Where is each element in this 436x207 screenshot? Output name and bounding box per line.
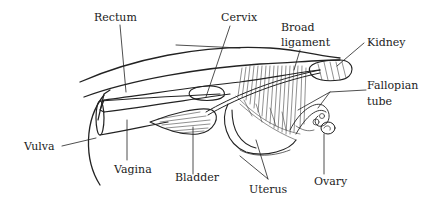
fallopian-tube-shape bbox=[290, 104, 329, 134]
label-ovary: Ovary bbox=[314, 176, 347, 188]
label-uterus: Uterus bbox=[249, 184, 287, 196]
label-broad-ligament-line2: ligament bbox=[281, 37, 330, 49]
label-vulva: Vulva bbox=[24, 141, 55, 153]
label-vagina: Vagina bbox=[114, 164, 152, 176]
label-broad-ligament-line1: Broad bbox=[281, 22, 315, 34]
label-rectum: Rectum bbox=[94, 12, 137, 24]
ureter-line bbox=[206, 70, 320, 115]
ovary-shape bbox=[321, 122, 335, 134]
cervix-shape bbox=[189, 86, 224, 101]
anatomy-diagram: Rectum Cervix Broad ligament Kidney Fall… bbox=[0, 0, 436, 207]
bladder-shape bbox=[150, 109, 216, 134]
label-fallopian-tube-line1: Fallopian bbox=[367, 80, 418, 92]
label-bladder: Bladder bbox=[175, 172, 219, 184]
label-cervix: Cervix bbox=[221, 12, 257, 24]
label-fallopian-tube-line2: tube bbox=[367, 96, 392, 108]
label-kidney: Kidney bbox=[367, 37, 406, 49]
